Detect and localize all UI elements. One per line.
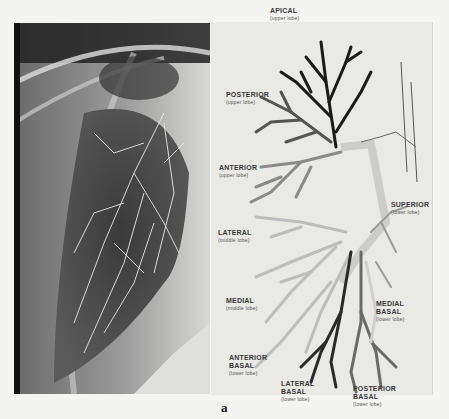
label-posterior-basal: POSTERIOR BASAL (lower lobe) — [353, 377, 396, 415]
label-superior: SUPERIOR (lower lobe) — [391, 201, 429, 215]
label-medial-basal: MEDIAL BASAL (lower lobe) — [376, 292, 405, 330]
label-lateral: LATERAL (middle lobe) — [218, 229, 252, 243]
label-lateral-basal: LATERAL BASAL (lower lobe) — [281, 372, 315, 410]
xray-graphic — [14, 23, 210, 394]
xray-image — [14, 23, 210, 394]
figure-caption: a — [221, 400, 228, 416]
label-medial: MEDIAL (middle lobe) — [226, 297, 258, 311]
label-posterior: POSTERIOR (upper lobe) — [226, 91, 269, 105]
label-anterior: ANTERIOR (upper lobe) — [219, 164, 257, 178]
label-apical: APICAL (upper lobe) — [270, 7, 299, 21]
label-anterior-basal: ANTERIOR BASAL (lower lobe) — [229, 346, 267, 384]
